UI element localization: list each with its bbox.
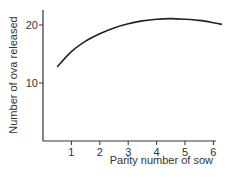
x-axis-label: Parity number of sow (110, 154, 213, 166)
y-axis-label: Number of ova released (7, 16, 19, 133)
y-tick-label: 20 (26, 19, 38, 31)
data-line (57, 19, 222, 67)
x-tick-label: 2 (97, 146, 103, 158)
y-tick-label: 10 (26, 77, 38, 89)
x-tick-label: 1 (68, 146, 74, 158)
y-ticks: 1020 (26, 19, 43, 89)
chart: 123456 1020 Parity number of sow Number … (0, 0, 233, 178)
axes (43, 10, 216, 141)
